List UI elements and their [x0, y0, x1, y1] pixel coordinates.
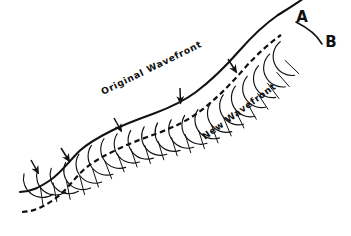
new-wavefront-label: New Wavefront	[200, 81, 278, 142]
wavelet-radius	[158, 142, 164, 160]
propagation-arrow	[228, 59, 237, 73]
wavelet-radius	[118, 154, 125, 172]
wavelet-radius	[185, 135, 191, 153]
wavelet-radius	[105, 161, 112, 179]
wavelet-arc	[128, 131, 153, 160]
wavelet-radius	[172, 138, 178, 156]
propagation-arrow	[61, 148, 70, 162]
propagation-arrow	[180, 88, 181, 104]
wavelet-arc	[101, 139, 126, 169]
wavelet-arc	[264, 54, 286, 87]
wavelet-radius	[285, 61, 299, 74]
wavelet-radius	[145, 145, 151, 163]
wavelet-radius	[131, 149, 137, 167]
point-b-label: B	[325, 33, 336, 51]
propagation-arrow	[31, 160, 39, 174]
original-wavefront-label: Original Wavefront	[99, 38, 204, 97]
figure-container: Original Wavefront New Wavefront A B	[0, 0, 351, 236]
point-a-label: A	[296, 8, 308, 26]
huygens-wavefront-diagram: Original Wavefront New Wavefront A B	[0, 0, 351, 236]
wavelet-arc	[273, 42, 294, 76]
wavelet-arc	[155, 123, 180, 151]
